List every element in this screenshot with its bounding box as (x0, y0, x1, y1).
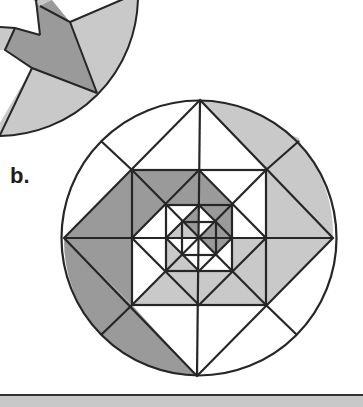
main-circle-figure (62, 100, 337, 376)
figure-label: b. (10, 163, 30, 189)
bottom-gray-band (0, 396, 363, 407)
figure-canvas (0, 0, 363, 407)
partial-circle-figure (0, 0, 150, 150)
